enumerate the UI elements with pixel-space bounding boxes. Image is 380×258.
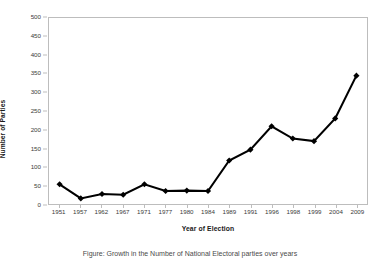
data-point-marker — [184, 188, 190, 194]
x-axis-tick-mark — [123, 205, 124, 208]
y-axis-tick-label: 200 — [31, 127, 41, 133]
y-axis-tick-mark — [43, 148, 47, 149]
x-axis-tick-mark — [165, 205, 166, 208]
x-axis-tick-label: 1999 — [308, 208, 322, 215]
x-axis-tick-mark — [251, 205, 252, 208]
y-axis-tick-mark — [43, 73, 47, 74]
y-axis-tick-label: 50 — [34, 183, 41, 189]
x-axis-tick-label: 1984 — [201, 208, 215, 215]
y-axis-tick-label: 300 — [31, 89, 41, 95]
y-axis-tick-mark — [43, 35, 47, 36]
chart-figure: Number of Parties 0501001502002503003504… — [0, 0, 380, 258]
x-axis-tick-label: 1991 — [244, 208, 258, 215]
y-axis-tick-mark — [43, 17, 47, 18]
y-axis-tick-label: 350 — [31, 70, 41, 76]
y-axis-tick-mark — [43, 111, 47, 112]
x-axis-tick-label: 1980 — [180, 208, 194, 215]
x-axis-tick-label: 1951 — [52, 208, 66, 215]
data-point-marker — [163, 188, 169, 194]
x-axis-tick-label: 1967 — [116, 208, 130, 215]
series-line-number-of-parties — [60, 76, 357, 199]
x-axis-tick-label: 1996 — [265, 208, 279, 215]
data-point-marker — [99, 191, 105, 197]
x-axis-tick-label: 1998 — [286, 208, 300, 215]
x-axis-tick-mark — [59, 205, 60, 208]
y-axis-tick-mark — [43, 167, 47, 168]
x-axis-tick-mark — [80, 205, 81, 208]
x-axis-tick-mark — [272, 205, 273, 208]
y-axis-tick-mark — [43, 129, 47, 130]
y-axis-tick-label: 100 — [31, 164, 41, 170]
figure-caption: Figure: Growth in the Number of National… — [0, 249, 380, 258]
line-series-svg — [49, 18, 367, 204]
x-axis-tick-label: 1962 — [94, 208, 108, 215]
y-axis-tick-mark — [43, 205, 47, 206]
x-axis-tick-label: 1977 — [158, 208, 172, 215]
x-axis-tick-mark — [208, 205, 209, 208]
x-axis-tick-mark — [101, 205, 102, 208]
y-axis-tick-mark — [43, 92, 47, 93]
x-axis-tick-label: 1957 — [73, 208, 87, 215]
x-axis-tick-label: 1971 — [137, 208, 151, 215]
y-axis-tick-mark — [43, 54, 47, 55]
y-axis-title: Number of Parties — [0, 0, 13, 258]
y-axis-tick-label: 250 — [31, 108, 41, 114]
y-axis-tick-label: 400 — [31, 51, 41, 57]
x-axis-tick-mark — [229, 205, 230, 208]
x-axis-tick-label: 1989 — [222, 208, 236, 215]
y-axis-tick-label: 150 — [31, 145, 41, 151]
x-axis-tick-mark — [293, 205, 294, 208]
x-axis-tick-mark — [144, 205, 145, 208]
y-axis-tick-label: 0 — [38, 202, 41, 208]
x-axis-tick-mark — [336, 205, 337, 208]
series-markers — [57, 73, 360, 202]
y-axis-tick-label: 450 — [31, 33, 41, 39]
x-axis-tick-mark — [357, 205, 358, 208]
plot-area — [48, 17, 368, 205]
x-axis-tick-mark — [187, 205, 188, 208]
y-axis-tick-mark — [43, 186, 47, 187]
x-axis-tick-label: 2004 — [329, 208, 343, 215]
y-axis-tick-label: 500 — [31, 14, 41, 20]
x-axis-tick-labels: 1951195719621967197119771980198419891991… — [48, 208, 368, 218]
x-axis-tick-label: 2009 — [350, 208, 364, 215]
x-axis-tick-mark — [315, 205, 316, 208]
x-axis-title: Year of Election — [48, 225, 368, 232]
